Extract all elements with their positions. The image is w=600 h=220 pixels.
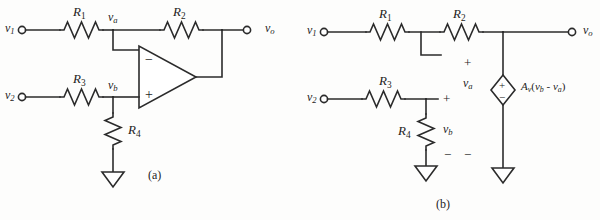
label-v2-b: v2 <box>307 91 317 105</box>
label-r3-a: R3 <box>73 72 86 88</box>
opamp-noninverting-sign-a: + <box>145 88 153 102</box>
terminal-vo-b <box>568 28 575 35</box>
caption-a: (a) <box>148 169 161 181</box>
circuit-drawing-canvas <box>0 0 600 220</box>
resistor-r1-b <box>366 24 409 40</box>
figure-circuit-diagram: v1 R1 va R2 vo v2 R3 vb R4 − + (a) v1 R1… <box>0 0 600 220</box>
wire-opamp-output-feedback-a <box>196 30 222 77</box>
junction-output-a <box>221 29 223 31</box>
label-r1-a: R1 <box>73 5 86 21</box>
label-vb-a: vb <box>108 79 118 93</box>
label-va-b: va <box>463 77 473 91</box>
open-terminal-stub-b <box>421 32 441 55</box>
terminal-v2-b <box>320 95 327 102</box>
ground-symbol-source-b <box>492 168 514 183</box>
terminal-vo-a <box>243 26 250 33</box>
label-r2-a: R2 <box>173 5 186 21</box>
ground-symbol-a <box>102 172 124 187</box>
label-v2-a: v2 <box>5 89 15 103</box>
label-vb-plus-b: + <box>443 92 450 105</box>
resistor-r2-b <box>440 24 483 40</box>
wire-va-to-inverting-input-a <box>113 30 139 50</box>
label-r4-b: R4 <box>398 124 411 140</box>
junction-va-a <box>112 29 114 31</box>
label-v1-b: v1 <box>307 24 317 38</box>
resistor-r4-a <box>105 113 121 149</box>
resistor-r2-a <box>160 22 203 38</box>
label-v1-a: v1 <box>5 22 15 36</box>
dependent-source-expression-b: Av(vb - va) <box>521 81 565 94</box>
label-vb-b: vb <box>443 123 453 137</box>
caption-b: (b) <box>436 198 450 210</box>
resistor-r4-b <box>418 114 434 150</box>
terminal-v1-a <box>18 26 25 33</box>
terminal-v1-b <box>320 28 327 35</box>
label-r3-b: R3 <box>379 74 392 90</box>
label-r1-b: R1 <box>379 7 392 23</box>
terminal-v2-a <box>18 93 25 100</box>
label-r4-a: R4 <box>128 123 141 139</box>
label-vo-b: vo <box>583 24 593 38</box>
resistor-r3-a <box>60 89 103 105</box>
label-va-a: va <box>108 11 118 25</box>
label-vo-a: vo <box>265 22 275 36</box>
resistor-r1-a <box>60 22 103 38</box>
label-va-minus-b: − <box>464 148 471 161</box>
label-va-plus-b: + <box>464 56 471 69</box>
ground-symbol-r4-b <box>415 166 437 181</box>
junction-vo-b <box>502 31 504 33</box>
junction-vb-a <box>112 96 114 98</box>
resistor-r3-b <box>362 91 405 107</box>
label-vb-minus-b: − <box>444 148 451 161</box>
source-minus-sign-b: − <box>499 92 505 103</box>
opamp-inverting-sign-a: − <box>145 53 153 67</box>
junction-vb-b <box>425 98 427 100</box>
label-r2-b: R2 <box>453 7 466 23</box>
source-plus-sign-b: + <box>499 80 505 91</box>
